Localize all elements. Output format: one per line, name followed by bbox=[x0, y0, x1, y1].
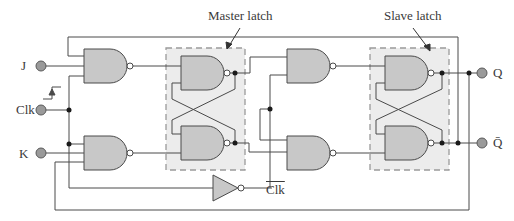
j-input-nand-gate bbox=[84, 49, 133, 83]
q-bar-terminal bbox=[477, 138, 487, 148]
q-label: Q bbox=[493, 66, 502, 79]
k-input-nand-gate bbox=[84, 136, 133, 170]
clk-terminal bbox=[36, 105, 46, 115]
k-terminal bbox=[36, 148, 46, 158]
slave-latch-label: Slave latch bbox=[384, 9, 441, 22]
master-latch-label: Master latch bbox=[208, 9, 273, 22]
clock-inverter bbox=[213, 175, 270, 201]
jk-flip-flop-schematic bbox=[0, 0, 514, 221]
k-label: K bbox=[19, 147, 28, 160]
j-terminal bbox=[36, 61, 46, 71]
j-label: J bbox=[21, 59, 26, 72]
clk-bar-label: Clk bbox=[266, 183, 285, 196]
clock-edge-icon bbox=[43, 87, 61, 99]
slave-input-bottom-nand-gate bbox=[287, 136, 336, 170]
annotation-arrows bbox=[226, 28, 430, 51]
q-terminal bbox=[477, 68, 487, 78]
slave-input-top-nand-gate bbox=[287, 49, 336, 83]
clk-label: Clk bbox=[16, 103, 35, 116]
q-bar-label: Q̄ bbox=[493, 136, 502, 149]
